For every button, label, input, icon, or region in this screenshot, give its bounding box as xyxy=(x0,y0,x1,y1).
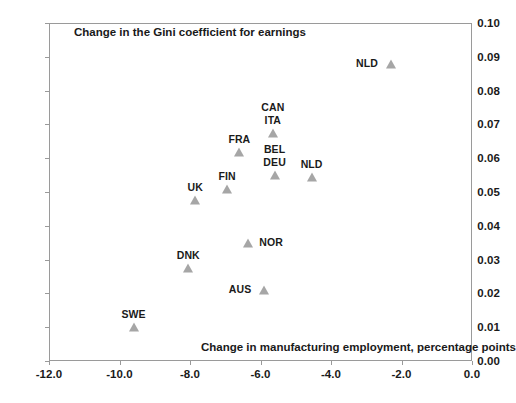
y-axis-tick-mark xyxy=(45,327,49,328)
x-axis-tick-mark xyxy=(190,361,191,365)
y-axis-tick-label: 0.03 xyxy=(458,254,500,266)
y-axis-tick-mark xyxy=(45,23,49,24)
data-point-label: SWE xyxy=(121,308,145,320)
x-axis-tick-label: -2.0 xyxy=(372,368,432,380)
y-axis-tick-mark xyxy=(45,260,49,261)
x-axis-tick-mark xyxy=(261,361,262,365)
y-axis-tick-mark xyxy=(45,57,49,58)
chart-title: Change in the Gini coefficient for earni… xyxy=(74,26,306,38)
y-axis-tick-label: 0.05 xyxy=(458,186,500,198)
y-axis-tick-label: 0.09 xyxy=(458,51,500,63)
data-point-marker xyxy=(386,59,396,68)
data-point-label: NLD xyxy=(356,57,378,69)
y-axis-tick-mark xyxy=(45,293,49,294)
x-axis-tick-label: -12.0 xyxy=(19,368,79,380)
data-point-label: FIN xyxy=(218,170,235,182)
y-axis-tick-mark xyxy=(45,91,49,92)
y-axis-tick-mark xyxy=(45,192,49,193)
x-axis-tick-mark xyxy=(402,361,403,365)
data-point-marker xyxy=(259,286,269,295)
data-point-marker xyxy=(234,148,244,157)
data-point-label: FRA xyxy=(228,133,250,145)
y-axis-tick-label: 0.06 xyxy=(458,152,500,164)
y-axis-tick-label: 0.04 xyxy=(458,220,500,232)
x-axis-tick-mark xyxy=(472,361,473,365)
data-point-marker xyxy=(270,171,280,180)
x-axis-tick-mark xyxy=(49,361,50,365)
x-axis-tick-label: -8.0 xyxy=(160,368,220,380)
y-axis-tick-label: 0.08 xyxy=(458,85,500,97)
y-axis-tick-mark xyxy=(45,158,49,159)
data-point-marker xyxy=(307,173,317,182)
y-axis-tick-label: 0.02 xyxy=(458,287,500,299)
y-axis-tick-label: 0.00 xyxy=(458,355,500,367)
x-axis-tick-mark xyxy=(331,361,332,365)
data-point-label: AUS xyxy=(229,283,251,295)
data-point-marker xyxy=(243,238,253,247)
x-axis-title: Change in manufacturing employment, perc… xyxy=(201,341,516,353)
x-axis-tick-label: -10.0 xyxy=(90,368,150,380)
data-point-label: NOR xyxy=(259,236,283,248)
data-point-label: ITA xyxy=(265,114,281,126)
y-axis-tick-label: 0.01 xyxy=(458,321,500,333)
x-axis-tick-label: 0.0 xyxy=(442,368,502,380)
data-point-label: NLD xyxy=(301,158,323,170)
y-axis-tick-label: 0.07 xyxy=(458,118,500,130)
data-point-marker xyxy=(183,264,193,273)
data-point-label: BEL xyxy=(264,143,285,155)
data-point-label: DEU xyxy=(263,156,285,168)
data-point-marker xyxy=(129,323,139,332)
data-point-label: CAN xyxy=(261,101,284,113)
data-point-label: UK xyxy=(188,181,203,193)
x-axis-tick-mark xyxy=(120,361,121,365)
y-axis-tick-mark xyxy=(45,226,49,227)
data-point-marker xyxy=(222,185,232,194)
y-axis-tick-mark xyxy=(45,124,49,125)
x-axis-tick-label: -6.0 xyxy=(231,368,291,380)
data-point-marker xyxy=(268,128,278,137)
data-point-label: DNK xyxy=(177,249,200,261)
plot-area xyxy=(49,23,472,361)
data-point-marker xyxy=(190,195,200,204)
y-axis-tick-label: 0.10 xyxy=(458,17,500,29)
x-axis-tick-label: -4.0 xyxy=(301,368,361,380)
